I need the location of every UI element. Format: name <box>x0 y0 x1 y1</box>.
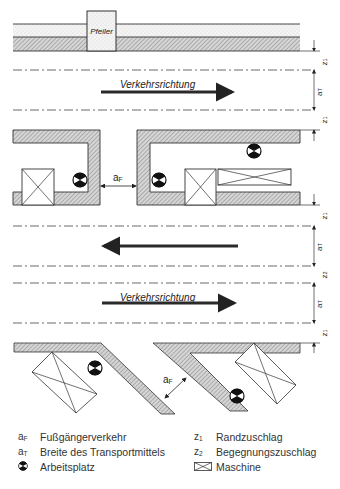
machine-icon <box>194 460 216 474</box>
legend-label: Breite des Transportmittels <box>40 445 165 459</box>
svg-text:z1: z1 <box>320 212 329 219</box>
legend-symbol: aT <box>18 445 40 461</box>
pillar: Pfeiler <box>87 11 116 51</box>
pillar-label: Pfeiler <box>90 27 113 36</box>
direction-label-top: Verkehrsrichtung <box>120 79 196 90</box>
legend-symbol: aF <box>18 430 40 446</box>
top-wall <box>13 24 300 51</box>
machine-icon <box>32 352 97 413</box>
workplace-icon <box>88 361 102 376</box>
legend-label: Fußgängerverkehr <box>40 430 126 444</box>
lane-1: Verkehrsrichtung <box>13 70 315 110</box>
legend: aF Fußgängerverkehr aT Breite des Transp… <box>0 428 340 488</box>
lane-2 <box>13 226 315 266</box>
legend-label: Arbeitsplatz <box>40 460 95 474</box>
svg-text:z1: z1 <box>320 58 329 65</box>
legend-symbol: z2 <box>194 445 216 461</box>
svg-text:z2: z2 <box>320 271 329 278</box>
lane-3: Verkehrsrichtung <box>13 283 315 323</box>
legend-label: Maschine <box>216 460 261 474</box>
legend-symbol: z1 <box>194 430 216 446</box>
workplace-icon <box>247 144 261 159</box>
workplace-icon <box>230 389 244 404</box>
workplace-icon <box>73 173 87 188</box>
diagonal-area-right <box>153 343 300 411</box>
workstation-area-left <box>13 130 100 205</box>
gap-af-label: aF <box>163 374 173 385</box>
legend-label: Randzuschlag <box>216 430 283 444</box>
svg-text:z1: z1 <box>320 116 329 123</box>
gap-af-dimension: aF <box>101 172 136 186</box>
workstation-area-right <box>137 130 300 205</box>
svg-text:aT: aT <box>315 242 324 250</box>
legend-label: Begegnungszuschlag <box>216 445 316 459</box>
dimension-labels: z1 aT z1 z1 aT z2 aT z1 <box>315 58 329 336</box>
gap-af-diagonal-dimension: aF <box>163 374 186 398</box>
svg-text:aT: aT <box>315 299 324 307</box>
gap-af-label: aF <box>113 172 123 183</box>
diagonal-area-left <box>14 343 175 414</box>
aisle-layout-diagram: Pfeiler Verkehrsrichtung aF <box>0 0 340 489</box>
workplace-icon <box>152 173 166 188</box>
svg-text:z1: z1 <box>320 329 329 336</box>
svg-text:aT: aT <box>315 87 324 95</box>
direction-label-bottom: Verkehrsrichtung <box>120 292 196 303</box>
workplace-icon <box>18 460 40 474</box>
